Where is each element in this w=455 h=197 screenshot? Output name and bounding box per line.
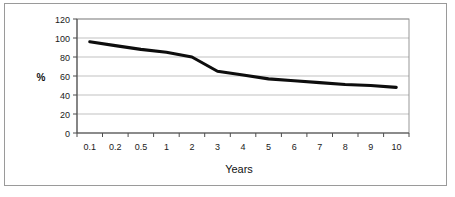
x-tick-label-12: 10 (391, 142, 401, 152)
y-tick-label-120: 120 (55, 15, 70, 25)
y-tick-label-20: 20 (60, 110, 70, 120)
gridlines-horizontal (77, 19, 409, 114)
x-tick-label-0: 0.1 (84, 142, 97, 152)
y-tick-label-100: 100 (55, 34, 70, 44)
x-tick-label-8: 6 (292, 142, 297, 152)
y-axis-tick-labels: 120 100 80 60 40 20 0 (55, 15, 70, 139)
chart-canvas: 120 100 80 60 40 20 0 (0, 0, 455, 197)
data-series-line (90, 42, 396, 88)
x-axis-ticks (77, 133, 409, 137)
y-axis-title: % (37, 72, 46, 83)
x-tick-label-10: 8 (343, 142, 348, 152)
x-tick-label-7: 5 (266, 142, 271, 152)
y-axis-ticks (73, 19, 77, 133)
x-tick-label-4: 2 (189, 142, 194, 152)
y-tick-label-80: 80 (60, 53, 70, 63)
x-tick-label-3: 1 (164, 142, 169, 152)
x-tick-label-11: 9 (368, 142, 373, 152)
x-tick-label-1: 0.2 (109, 142, 122, 152)
x-tick-label-9: 7 (317, 142, 322, 152)
y-tick-label-0: 0 (65, 129, 70, 139)
x-tick-label-6: 4 (241, 142, 246, 152)
y-tick-label-60: 60 (60, 72, 70, 82)
x-axis-title: Years (225, 163, 253, 175)
screenshot-root: 120 100 80 60 40 20 0 (0, 0, 455, 197)
x-tick-label-5: 3 (215, 142, 220, 152)
x-axis-tick-labels: 0.1 0.2 0.5 1 2 3 4 5 6 7 8 9 10 (84, 142, 402, 152)
x-tick-label-2: 0.5 (135, 142, 148, 152)
y-tick-label-40: 40 (60, 91, 70, 101)
line-chart: 120 100 80 60 40 20 0 (0, 0, 455, 197)
